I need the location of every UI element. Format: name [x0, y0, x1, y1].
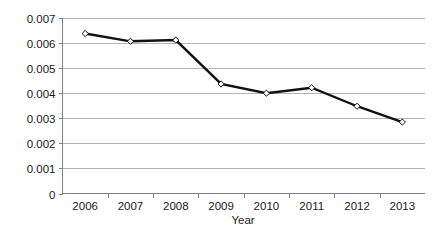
gridlines-group — [63, 19, 426, 169]
x-tick-label: 2008 — [163, 200, 189, 212]
y-tick-label: 0.006 — [27, 38, 56, 50]
x-axis-title: Year — [231, 214, 254, 226]
y-tick-label: 0 — [49, 189, 55, 201]
data-series-line — [85, 34, 402, 123]
y-tick-labels-group: 00.0010.0020.0030.0040.0050.0060.007 — [27, 13, 56, 201]
x-tick-label: 2010 — [254, 200, 280, 212]
x-tick-label: 2011 — [299, 200, 324, 212]
x-tick-labels-group: 20062007200820092010201120122013 — [72, 200, 415, 212]
data-point-markers-group — [82, 30, 405, 125]
x-tick-label: 2012 — [344, 200, 370, 212]
y-tick-label: 0.007 — [27, 13, 56, 25]
data-point-marker — [82, 30, 88, 36]
data-point-marker — [399, 119, 405, 125]
y-tick-label: 0.001 — [27, 163, 56, 175]
y-tick-label: 0.003 — [27, 113, 56, 125]
line-chart-figure: 00.0010.0020.0030.0040.0050.0060.007 200… — [0, 0, 448, 237]
data-point-marker — [263, 90, 269, 96]
x-tick-label: 2006 — [72, 200, 98, 212]
y-tick-label: 0.005 — [27, 63, 56, 75]
y-tick-label: 0.002 — [27, 138, 56, 150]
chart-canvas: 00.0010.0020.0030.0040.0050.0060.007 200… — [0, 0, 448, 237]
y-tick-label: 0.004 — [27, 88, 56, 100]
x-tick-label: 2009 — [208, 200, 234, 212]
x-tick-marks-group — [109, 194, 381, 198]
x-tick-label: 2007 — [118, 200, 144, 212]
x-tick-label: 2013 — [390, 200, 416, 212]
